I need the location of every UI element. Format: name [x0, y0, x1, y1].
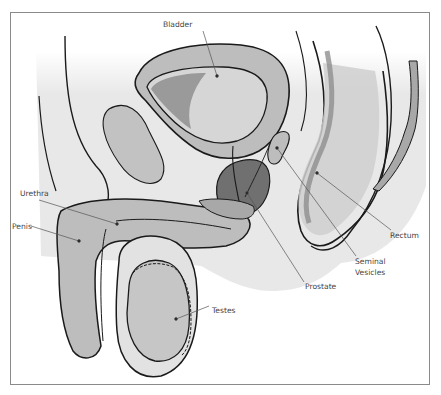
diagram-frame: Bladder Urethra Penis Rectum Seminal Ves… [10, 12, 430, 385]
label-testes: Testes [212, 307, 236, 316]
label-seminal-vesicles-line2: Vesicles [355, 269, 385, 278]
label-penis: Penis [12, 223, 32, 232]
label-prostate: Prostate [305, 283, 336, 292]
label-seminal-vesicles-line1: Seminal [355, 258, 386, 267]
label-urethra: Urethra [20, 190, 49, 199]
label-rectum: Rectum [390, 232, 419, 241]
label-bladder: Bladder [163, 21, 192, 30]
testis [127, 260, 189, 361]
anatomy-illustration [11, 13, 430, 385]
